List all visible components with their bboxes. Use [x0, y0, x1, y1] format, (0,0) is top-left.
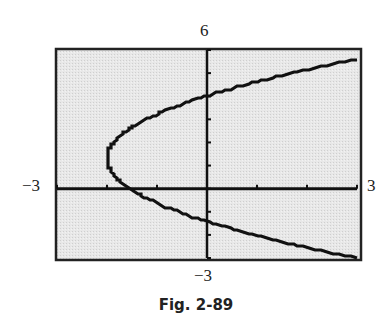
ymin-label: −3 [194, 267, 212, 284]
xmax-label: 3 [367, 177, 376, 194]
ymax-label: 6 [200, 22, 209, 39]
xmin-label: −3 [22, 177, 40, 194]
figure-caption: Fig. 2-89 [0, 296, 392, 314]
plot-background [56, 49, 361, 260]
